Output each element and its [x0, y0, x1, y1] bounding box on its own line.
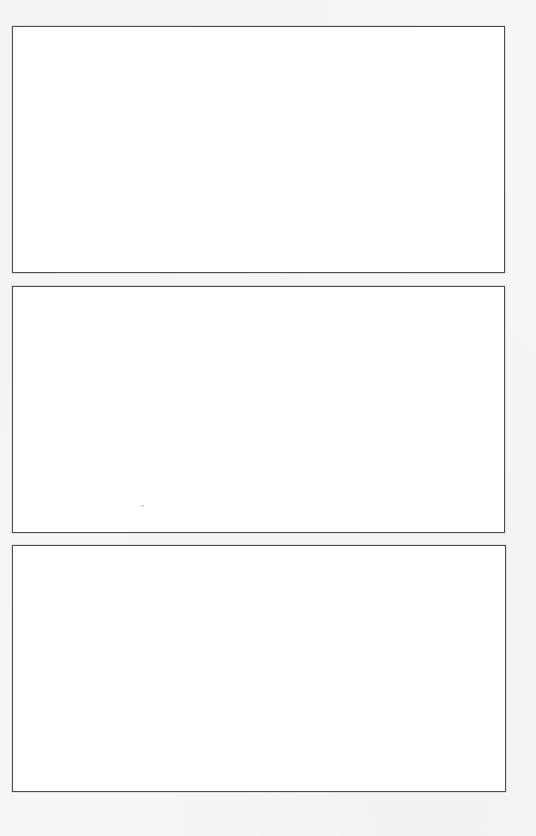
panel-3: [12, 545, 506, 792]
panel-1: [12, 26, 505, 273]
scan-artifact: [141, 505, 144, 507]
panel-2: [12, 286, 505, 533]
document-page: [0, 0, 536, 836]
